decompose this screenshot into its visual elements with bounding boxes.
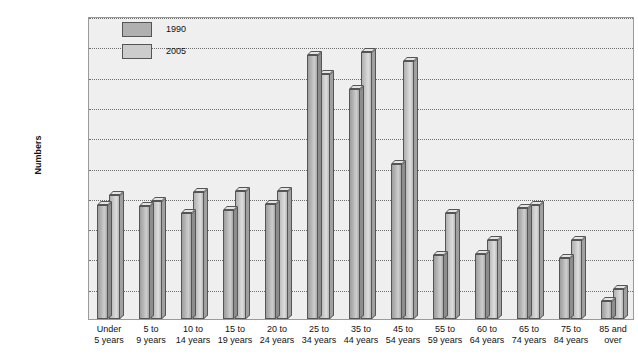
bar-side-face [120, 191, 124, 319]
plot-area [88, 17, 634, 320]
bar-front-face [223, 210, 234, 319]
bar-front-face [601, 301, 612, 319]
bar-group [467, 18, 509, 319]
bar-front-face [307, 55, 318, 319]
bar-front-face [517, 208, 528, 319]
bar-side-face [570, 254, 574, 319]
legend-label-1990: 1990 [166, 24, 186, 34]
bar-side-face [402, 160, 406, 319]
bar-side-face [414, 57, 418, 319]
bar-side-face [372, 48, 376, 319]
bar-group [257, 18, 299, 319]
bar-1990-75-to-84-years [559, 258, 570, 319]
bar-group [89, 18, 131, 319]
bar-side-face [456, 209, 460, 319]
bar-side-face [582, 236, 586, 319]
bar-1990-5-to-9-years [139, 206, 150, 319]
bar-front-face [391, 164, 402, 319]
bar-1990-65-to-74-years [517, 208, 528, 319]
bar-side-face [276, 200, 280, 319]
bar-group [131, 18, 173, 319]
x-axis-tick-12: 85 andover [586, 324, 638, 346]
bar-1990-85-and-over [601, 301, 612, 319]
bar-chart: Numbers 05,000,00010,000,00015,000,00020… [0, 0, 638, 354]
y-axis-title: Numbers [33, 95, 43, 215]
bar-front-face [265, 204, 276, 319]
bar-group [425, 18, 467, 319]
bar-side-face [162, 197, 166, 319]
bar-group [173, 18, 215, 319]
bar-group [341, 18, 383, 319]
bar-side-face [486, 250, 490, 319]
bar-1990-15-to-19-years [223, 210, 234, 319]
bar-1990-35-to-44-years [349, 89, 360, 319]
bar-front-face [181, 213, 192, 319]
bar-side-face [234, 206, 238, 319]
bar-side-face [288, 187, 292, 319]
bar-side-face [528, 204, 532, 319]
bar-side-face [360, 85, 364, 319]
bar-group [383, 18, 425, 319]
bar-group [551, 18, 593, 319]
bar-side-face [624, 285, 628, 319]
bar-side-face [444, 251, 448, 319]
bar-group [593, 18, 635, 319]
bar-1990-55-to-59-years [433, 255, 444, 319]
bar-1990-25-to-34-years [307, 55, 318, 319]
bar-1990-under-5-years [97, 205, 108, 319]
legend-swatch-1990 [122, 22, 152, 37]
bar-side-face [318, 51, 322, 319]
bar-side-face [204, 188, 208, 319]
bar-1990-45-to-54-years [391, 164, 402, 319]
bar-front-face [349, 89, 360, 319]
bar-1990-20-to-24-years [265, 204, 276, 319]
bar-group [215, 18, 257, 319]
bar-1990-60-to-64-years [475, 254, 486, 319]
bar-front-face [559, 258, 570, 319]
bar-side-face [150, 202, 154, 319]
bar-side-face [540, 201, 544, 319]
bar-side-face [192, 209, 196, 319]
bar-front-face [475, 254, 486, 319]
bar-group [299, 18, 341, 319]
bar-group [509, 18, 551, 319]
bar-side-face [498, 236, 502, 319]
legend-swatch-2005 [122, 44, 152, 59]
bar-front-face [97, 205, 108, 319]
bar-front-face [139, 206, 150, 319]
bar-front-face [433, 255, 444, 319]
bar-side-face [108, 201, 112, 319]
bar-side-face [246, 187, 250, 319]
legend-label-2005: 2005 [166, 46, 186, 56]
bar-side-face [330, 70, 334, 319]
bar-1990-10-to-14-years [181, 213, 192, 319]
